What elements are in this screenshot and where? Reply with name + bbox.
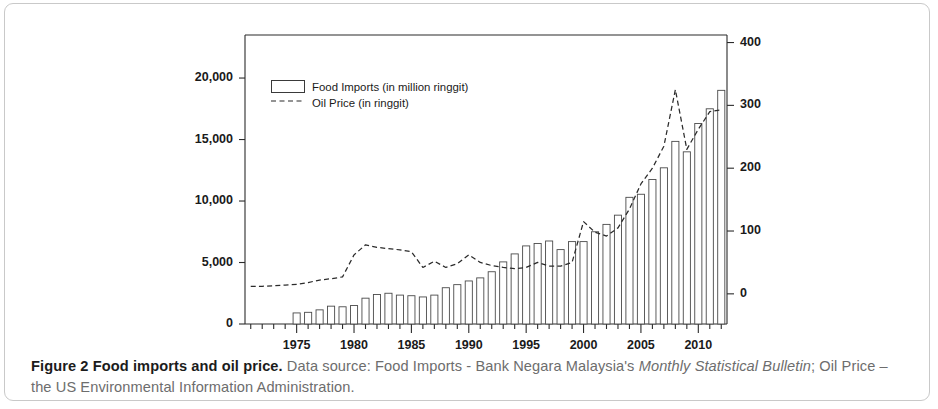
figure-frame: Food Imports (in million ringgit) Oil Pr… — [4, 3, 930, 401]
bar-2003 — [614, 215, 621, 324]
left-axis-tick-label-20000: 20,000 — [165, 70, 233, 84]
bar-1995 — [523, 246, 530, 324]
bar-2004 — [626, 197, 633, 324]
left-axis-tick-label-15000: 15,000 — [165, 132, 233, 146]
right-axis-ticks — [727, 43, 734, 294]
bar-1983 — [385, 293, 392, 324]
bar-1985 — [408, 296, 415, 324]
bar-1976 — [305, 312, 312, 324]
x-axis-tick-label-2005: 2005 — [616, 338, 666, 352]
bar-2008 — [672, 141, 679, 324]
bar-1977 — [316, 310, 323, 324]
bar-1999 — [569, 242, 576, 324]
right-axis-tick-label-400: 400 — [740, 35, 786, 49]
bar-1979 — [339, 307, 346, 324]
x-axis-tick-label-2000: 2000 — [559, 338, 609, 352]
bar-2009 — [683, 152, 690, 324]
bar-2000 — [580, 242, 587, 324]
bar-1978 — [328, 306, 335, 324]
x-axis-tick-label-2010: 2010 — [673, 338, 723, 352]
x-axis-tick-label-1990: 1990 — [444, 338, 494, 352]
caption-title: Figure 2 Food imports and oil price. — [31, 358, 283, 374]
left-axis-ticks — [239, 78, 245, 324]
legend-label-oil-price: Oil Price (in ringgit) — [312, 97, 409, 109]
bar-1990 — [465, 281, 472, 324]
bar-1987 — [431, 295, 438, 324]
legend-swatch-oil-price — [270, 96, 306, 106]
bar-series-food-imports — [293, 90, 725, 324]
left-axis-tick-label-5000: 5,000 — [165, 255, 233, 269]
bar-1982 — [373, 294, 380, 324]
bar-1975 — [293, 313, 300, 324]
bar-1998 — [557, 250, 564, 324]
bar-2011 — [706, 109, 713, 324]
bar-2002 — [603, 224, 610, 324]
caption-source-italic: Monthly Statistical Bulletin — [639, 358, 811, 374]
x-axis-tick-label-1975: 1975 — [272, 338, 322, 352]
chart-plot-area: Food Imports (in million ringgit) Oil Pr… — [5, 4, 931, 339]
legend-swatch-food-imports — [271, 80, 305, 93]
right-axis-tick-label-100: 100 — [740, 223, 786, 237]
bar-2001 — [591, 232, 598, 324]
bar-1997 — [546, 241, 553, 324]
bar-1984 — [396, 295, 403, 324]
bar-2005 — [637, 194, 644, 324]
bar-1992 — [488, 272, 495, 324]
bar-1980 — [350, 306, 357, 324]
legend-label-food-imports: Food Imports (in million ringgit) — [312, 81, 468, 93]
x-axis-tick-label-1995: 1995 — [501, 338, 551, 352]
bar-1991 — [477, 278, 484, 324]
left-axis-tick-label-10000: 10,000 — [165, 193, 233, 207]
x-axis-tick-label-1985: 1985 — [386, 338, 436, 352]
x-axis-ticks — [251, 324, 722, 333]
bar-1988 — [442, 288, 449, 324]
x-axis-tick-label-1980: 1980 — [329, 338, 379, 352]
right-axis-tick-label-200: 200 — [740, 160, 786, 174]
figure-caption: Figure 2 Food imports and oil price. Dat… — [31, 356, 911, 397]
bar-2010 — [695, 124, 702, 324]
bar-1994 — [511, 254, 518, 324]
bar-1989 — [454, 285, 461, 324]
bar-1981 — [362, 298, 369, 324]
bar-2012 — [718, 90, 725, 324]
bar-1993 — [500, 262, 507, 324]
food-imports-oil-price-chart — [5, 4, 931, 339]
bar-1996 — [534, 243, 541, 324]
caption-source-part-1: Data source: Food Imports - Bank Negara … — [283, 358, 639, 374]
right-axis-tick-label-300: 300 — [740, 97, 786, 111]
left-axis-tick-label-0: 0 — [165, 316, 233, 330]
bar-1986 — [419, 297, 426, 324]
right-axis-tick-label-0: 0 — [740, 286, 786, 300]
bar-2006 — [649, 180, 656, 325]
bar-2007 — [660, 168, 667, 324]
